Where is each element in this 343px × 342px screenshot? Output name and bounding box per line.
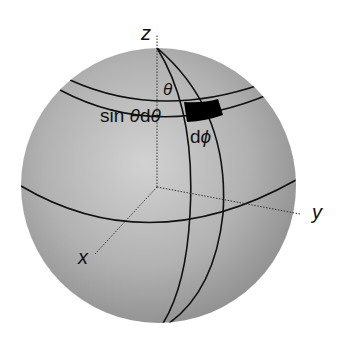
band-width-label: sin θdθ	[100, 105, 161, 126]
dphi-d: d	[190, 126, 201, 147]
sphere	[21, 48, 296, 323]
band-width-theta2: θ	[150, 105, 161, 126]
z-axis-label: z	[140, 22, 151, 44]
x-axis-label: x	[77, 246, 89, 268]
theta-label: θ	[163, 80, 173, 99]
y-axis-label: y	[310, 201, 323, 223]
dphi-label: dϕ	[190, 126, 211, 147]
band-width-d: d	[140, 105, 151, 126]
dphi-phi: ϕ	[201, 126, 212, 147]
sphere-diagram: z y x θ sin θdθ dϕ	[0, 0, 343, 342]
band-width-sin: sin	[100, 105, 130, 126]
